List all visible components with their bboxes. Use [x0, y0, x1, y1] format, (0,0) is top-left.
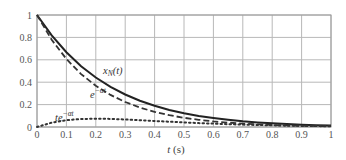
x-tick-label: 0.4 — [148, 129, 161, 140]
x-tick-label: 0.9 — [295, 129, 308, 140]
label-xn: xN(t) — [102, 65, 123, 78]
y-tick-label: 0.6 — [20, 54, 33, 65]
grid-lines — [37, 15, 331, 127]
x-axis-ticks: 00.10.20.30.40.50.60.70.80.91 — [35, 129, 334, 140]
x-tick-label: 0.2 — [90, 129, 103, 140]
x-tick-label: 0.3 — [119, 129, 132, 140]
y-tick-label: 1 — [27, 10, 32, 21]
x-axis-label: t (s) — [167, 143, 185, 156]
x-tick-label: 0 — [35, 129, 40, 140]
y-axis-ticks: 00.20.40.60.81 — [20, 10, 33, 133]
line-chart: 00.20.40.60.81 00.10.20.30.40.50.60.70.8… — [0, 0, 346, 160]
y-tick-label: 0.8 — [20, 32, 33, 43]
label-exp: e−αt — [90, 86, 107, 100]
y-tick-label: 0.2 — [20, 99, 33, 110]
x-tick-label: 1 — [329, 129, 334, 140]
x-tick-label: 0.7 — [237, 129, 250, 140]
x-tick-label: 0.5 — [178, 129, 191, 140]
x-tick-label: 0.1 — [60, 129, 73, 140]
y-tick-label: 0.4 — [20, 77, 33, 88]
x-tick-label: 0.6 — [207, 129, 220, 140]
x-tick-label: 0.8 — [266, 129, 279, 140]
y-tick-label: 0 — [27, 122, 32, 133]
